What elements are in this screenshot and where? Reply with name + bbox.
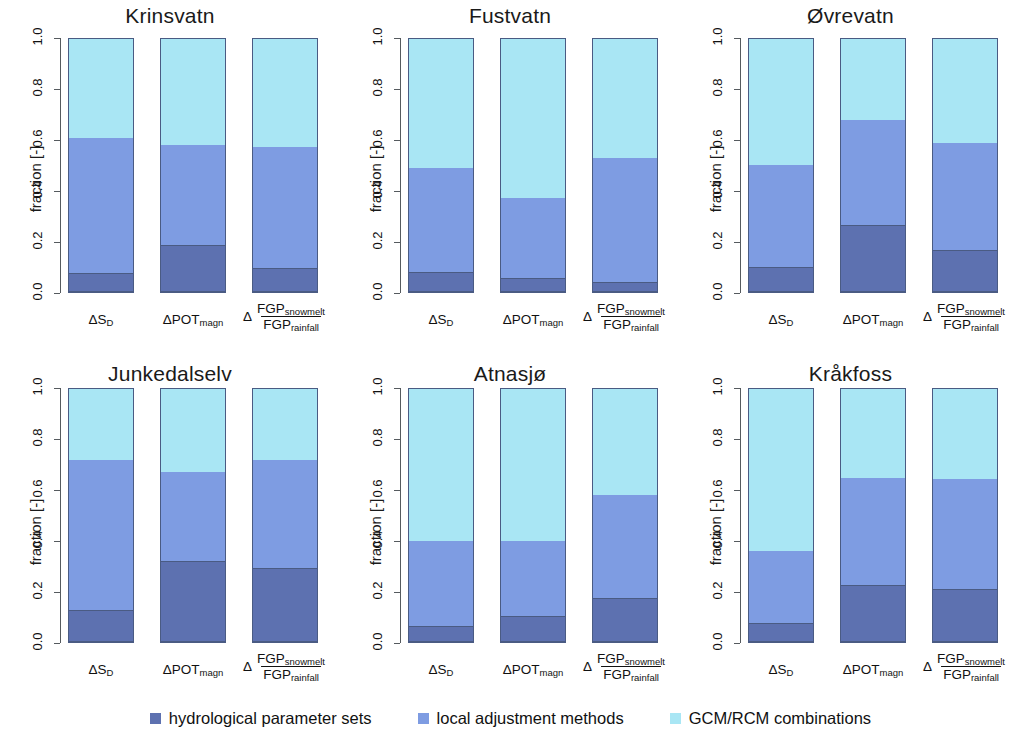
y-tick-mark: [394, 388, 400, 389]
stacked-bar: [160, 38, 226, 293]
panel-title: Fustvatn: [340, 4, 680, 28]
bar-segment-local-adjustment-methods: [933, 143, 997, 251]
x-tick-label: ΔSD: [89, 313, 114, 327]
bar-segment-gcm-rcm-combinations: [841, 38, 905, 120]
plot-area: 0.00.20.40.60.81.0: [748, 38, 998, 293]
bar-segment-gcm-rcm-combinations: [501, 388, 565, 541]
bars-container: [748, 388, 998, 643]
y-tick-label: 0.0: [30, 281, 45, 303]
bars-container: [68, 38, 318, 293]
y-tick-label: 0.8: [710, 427, 725, 449]
y-tick-label: 0.6: [30, 128, 45, 150]
stacked-bar: [68, 388, 134, 643]
bar-segment-local-adjustment-methods: [501, 198, 565, 280]
bar-segment-hydrological-parameter-sets: [749, 268, 813, 292]
stacked-bar: [160, 388, 226, 643]
bar-segment-gcm-rcm-combinations: [161, 38, 225, 145]
bar-segment-hydrological-parameter-sets: [933, 590, 997, 642]
y-tick-mark: [54, 490, 60, 491]
y-tick-label: 0.4: [30, 529, 45, 551]
plot-area: 0.00.20.40.60.81.0: [68, 38, 318, 293]
x-tick-label: ΔFGPsnowmeltFGPrainfall: [243, 651, 327, 682]
y-tick-mark: [394, 643, 400, 644]
y-tick-mark: [394, 592, 400, 593]
y-tick-mark: [734, 38, 740, 39]
y-tick-mark: [54, 89, 60, 90]
bar-segment-local-adjustment-methods: [161, 145, 225, 246]
plot-area: 0.00.20.40.60.81.0: [68, 388, 318, 643]
bar-segment-gcm-rcm-combinations: [161, 388, 225, 472]
y-tick-label: 1.0: [710, 376, 725, 398]
x-tick-label: ΔFGPsnowmeltFGPrainfall: [923, 301, 1007, 332]
bar-segment-local-adjustment-methods: [593, 495, 657, 598]
bar-segment-hydrological-parameter-sets: [253, 269, 317, 292]
x-tick-label: ΔFGPsnowmeltFGPrainfall: [583, 651, 667, 682]
panel--vrevatn: Øvrevatnfraction [-]0.00.20.40.60.81.0ΔS…: [680, 0, 1021, 358]
bar-segment-gcm-rcm-combinations: [593, 388, 657, 495]
y-tick-mark: [54, 38, 60, 39]
legend-item: hydrological parameter sets: [150, 709, 372, 728]
bar-segment-gcm-rcm-combinations: [841, 388, 905, 478]
bar-segment-local-adjustment-methods: [841, 120, 905, 226]
y-tick-label: 0.0: [710, 631, 725, 653]
y-tick-mark: [54, 293, 60, 294]
x-tick-label: ΔSD: [769, 313, 794, 327]
y-tick-mark: [54, 592, 60, 593]
panel-title: Kråkfoss: [680, 362, 1021, 386]
y-tick-mark: [734, 191, 740, 192]
bars-container: [408, 388, 658, 643]
x-tick-label: ΔPOTmagn: [503, 663, 564, 677]
stacked-bar: [592, 388, 658, 643]
x-tick-label: ΔPOTmagn: [163, 313, 224, 327]
bar-segment-hydrological-parameter-sets: [841, 226, 905, 292]
y-tick-label: 0.8: [370, 77, 385, 99]
y-tick-mark: [734, 388, 740, 389]
bar-segment-gcm-rcm-combinations: [933, 38, 997, 143]
y-axis-spine: [60, 38, 61, 293]
y-tick-label: 0.8: [30, 427, 45, 449]
y-tick-mark: [394, 541, 400, 542]
bar-segment-gcm-rcm-combinations: [253, 38, 317, 147]
bar-segment-hydrological-parameter-sets: [69, 611, 133, 642]
panel-kr-kfoss: Kråkfossfraction [-]0.00.20.40.60.81.0ΔS…: [680, 358, 1021, 705]
bar-segment-gcm-rcm-combinations: [501, 38, 565, 198]
y-tick-mark: [734, 140, 740, 141]
bar-segment-local-adjustment-methods: [749, 165, 813, 268]
bar-segment-local-adjustment-methods: [409, 541, 473, 626]
bar-segment-hydrological-parameter-sets: [409, 627, 473, 642]
bar-segment-hydrological-parameter-sets: [69, 274, 133, 292]
y-tick-label: 0.0: [370, 631, 385, 653]
y-tick-mark: [54, 541, 60, 542]
bar-segment-gcm-rcm-combinations: [409, 388, 473, 541]
y-tick-label: 0.6: [710, 478, 725, 500]
y-tick-label: 0.4: [710, 529, 725, 551]
x-tick-label: ΔFGPsnowmeltFGPrainfall: [583, 301, 667, 332]
legend-label: hydrological parameter sets: [169, 709, 372, 728]
x-tick-label: ΔSD: [769, 663, 794, 677]
y-tick-mark: [394, 89, 400, 90]
x-tick-label: ΔPOTmagn: [843, 663, 904, 677]
y-tick-label: 0.0: [30, 631, 45, 653]
bars-container: [408, 38, 658, 293]
panel-atnasj-: Atnasjøfraction [-]0.00.20.40.60.81.0ΔSD…: [340, 358, 680, 705]
y-tick-label: 0.4: [370, 179, 385, 201]
y-tick-label: 0.8: [370, 427, 385, 449]
y-tick-label: 0.4: [710, 179, 725, 201]
stacked-bar: [932, 38, 998, 293]
y-tick-label: 0.6: [370, 128, 385, 150]
bar-segment-gcm-rcm-combinations: [69, 38, 133, 138]
y-tick-mark: [394, 293, 400, 294]
bar-segment-gcm-rcm-combinations: [933, 388, 997, 479]
figure-root: Krinsvatnfraction [-]0.00.20.40.60.81.0Δ…: [0, 0, 1021, 733]
y-tick-label: 0.2: [710, 580, 725, 602]
bars-container: [748, 38, 998, 293]
y-tick-label: 0.6: [710, 128, 725, 150]
bar-segment-local-adjustment-methods: [409, 168, 473, 273]
y-tick-mark: [54, 140, 60, 141]
bar-segment-hydrological-parameter-sets: [161, 562, 225, 642]
stacked-bar: [840, 388, 906, 643]
y-tick-label: 0.4: [370, 529, 385, 551]
legend-label: GCM/RCM combinations: [689, 709, 871, 728]
panel-title: Junkedalselv: [0, 362, 340, 386]
y-tick-label: 0.6: [370, 478, 385, 500]
